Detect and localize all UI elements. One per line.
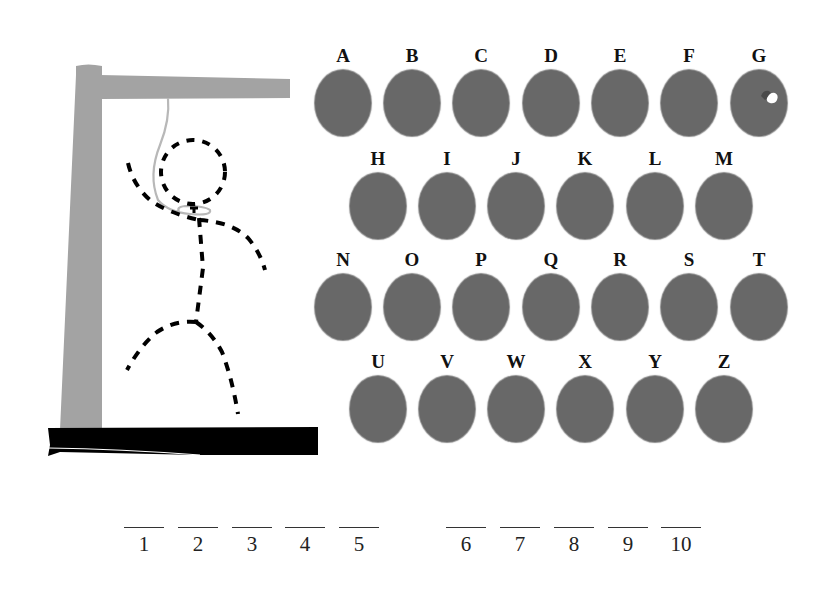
figure-left-leg: [127, 322, 196, 370]
letter-label: K: [555, 149, 615, 169]
word-blank-2: 2: [178, 527, 218, 567]
letter-disc[interactable]: [523, 274, 579, 340]
blank-number: 10: [661, 533, 701, 555]
letter-label: W: [486, 352, 546, 372]
letter-label: J: [486, 149, 546, 169]
letter-disc[interactable]: [557, 376, 613, 442]
blank-underline: [285, 527, 325, 528]
letter-label: Z: [694, 352, 754, 372]
letter-button-c[interactable]: C: [451, 46, 511, 136]
letter-button-m[interactable]: M: [694, 149, 754, 239]
word-blank-10: 10: [661, 527, 701, 567]
letter-label: Q: [521, 250, 581, 270]
letter-label: H: [348, 149, 408, 169]
letter-label: D: [521, 46, 581, 66]
letter-disc[interactable]: [453, 274, 509, 340]
letter-button-f[interactable]: F: [659, 46, 719, 136]
letter-button-p[interactable]: P: [451, 250, 511, 340]
letter-disc[interactable]: [350, 173, 406, 239]
letter-disc[interactable]: [453, 70, 509, 136]
letter-disc[interactable]: [488, 173, 544, 239]
word-blank-5: 5: [339, 527, 379, 567]
letter-button-t[interactable]: T: [729, 250, 789, 340]
blank-underline: [608, 527, 648, 528]
letter-button-i[interactable]: I: [417, 149, 477, 239]
letter-label: T: [729, 250, 789, 270]
letter-button-n[interactable]: N: [313, 250, 373, 340]
letter-label: X: [555, 352, 615, 372]
letter-button-z[interactable]: Z: [694, 352, 754, 442]
letter-button-s[interactable]: S: [659, 250, 719, 340]
figure-left-arm: [128, 163, 199, 220]
figure-right-arm: [199, 220, 265, 270]
letter-button-e[interactable]: E: [590, 46, 650, 136]
letter-button-j[interactable]: J: [486, 149, 546, 239]
letter-button-k[interactable]: K: [555, 149, 615, 239]
letter-disc[interactable]: [731, 70, 787, 136]
letter-disc[interactable]: [592, 274, 648, 340]
figure-body: [196, 218, 203, 322]
letter-button-a[interactable]: A: [313, 46, 373, 136]
letter-disc[interactable]: [661, 70, 717, 136]
letter-disc[interactable]: [592, 70, 648, 136]
blank-underline: [178, 527, 218, 528]
letter-label: O: [382, 250, 442, 270]
blank-number: 8: [554, 533, 594, 555]
letter-disc[interactable]: [557, 173, 613, 239]
letter-disc[interactable]: [696, 376, 752, 442]
letter-disc[interactable]: [627, 173, 683, 239]
letter-button-x[interactable]: X: [555, 352, 615, 442]
letter-disc[interactable]: [627, 376, 683, 442]
gallows-beam: [100, 75, 290, 99]
letter-label: Y: [625, 352, 685, 372]
letter-button-d[interactable]: D: [521, 46, 581, 136]
letter-label: U: [348, 352, 408, 372]
letter-label: R: [590, 250, 650, 270]
blank-underline: [446, 527, 486, 528]
blank-number: 2: [178, 533, 218, 555]
rope: [153, 98, 210, 215]
letter-label: P: [451, 250, 511, 270]
letter-button-b[interactable]: B: [382, 46, 442, 136]
letter-button-v[interactable]: V: [417, 352, 477, 442]
letter-button-r[interactable]: R: [590, 250, 650, 340]
letter-disc[interactable]: [315, 70, 371, 136]
letter-button-g[interactable]: G: [729, 46, 789, 136]
letter-disc[interactable]: [350, 376, 406, 442]
letter-button-q[interactable]: Q: [521, 250, 581, 340]
letter-button-y[interactable]: Y: [625, 352, 685, 442]
letter-label: V: [417, 352, 477, 372]
blank-underline: [232, 527, 272, 528]
letter-disc[interactable]: [696, 173, 752, 239]
letter-disc[interactable]: [523, 70, 579, 136]
blank-underline: [339, 527, 379, 528]
letter-label: S: [659, 250, 719, 270]
letter-button-l[interactable]: L: [625, 149, 685, 239]
gallows-base: [48, 427, 318, 456]
letter-disc[interactable]: [419, 173, 475, 239]
letter-button-w[interactable]: W: [486, 352, 546, 442]
letter-button-h[interactable]: H: [348, 149, 408, 239]
letter-label: M: [694, 149, 754, 169]
letter-label: N: [313, 250, 373, 270]
letter-disc[interactable]: [419, 376, 475, 442]
figure-right-leg: [196, 322, 238, 414]
letter-disc[interactable]: [731, 274, 787, 340]
letter-label: C: [451, 46, 511, 66]
letter-button-u[interactable]: U: [348, 352, 408, 442]
letter-label: G: [729, 46, 789, 66]
word-blank-7: 7: [500, 527, 540, 567]
letter-label: B: [382, 46, 442, 66]
blank-number: 5: [339, 533, 379, 555]
word-blank-8: 8: [554, 527, 594, 567]
word-blank-1: 1: [124, 527, 164, 567]
letter-disc[interactable]: [384, 70, 440, 136]
word-blank-4: 4: [285, 527, 325, 567]
letter-disc[interactable]: [384, 274, 440, 340]
letter-disc[interactable]: [488, 376, 544, 442]
letter-disc[interactable]: [315, 274, 371, 340]
letter-disc[interactable]: [661, 274, 717, 340]
gallows-drawing: [0, 0, 340, 480]
letter-button-o[interactable]: O: [382, 250, 442, 340]
letter-label: I: [417, 149, 477, 169]
